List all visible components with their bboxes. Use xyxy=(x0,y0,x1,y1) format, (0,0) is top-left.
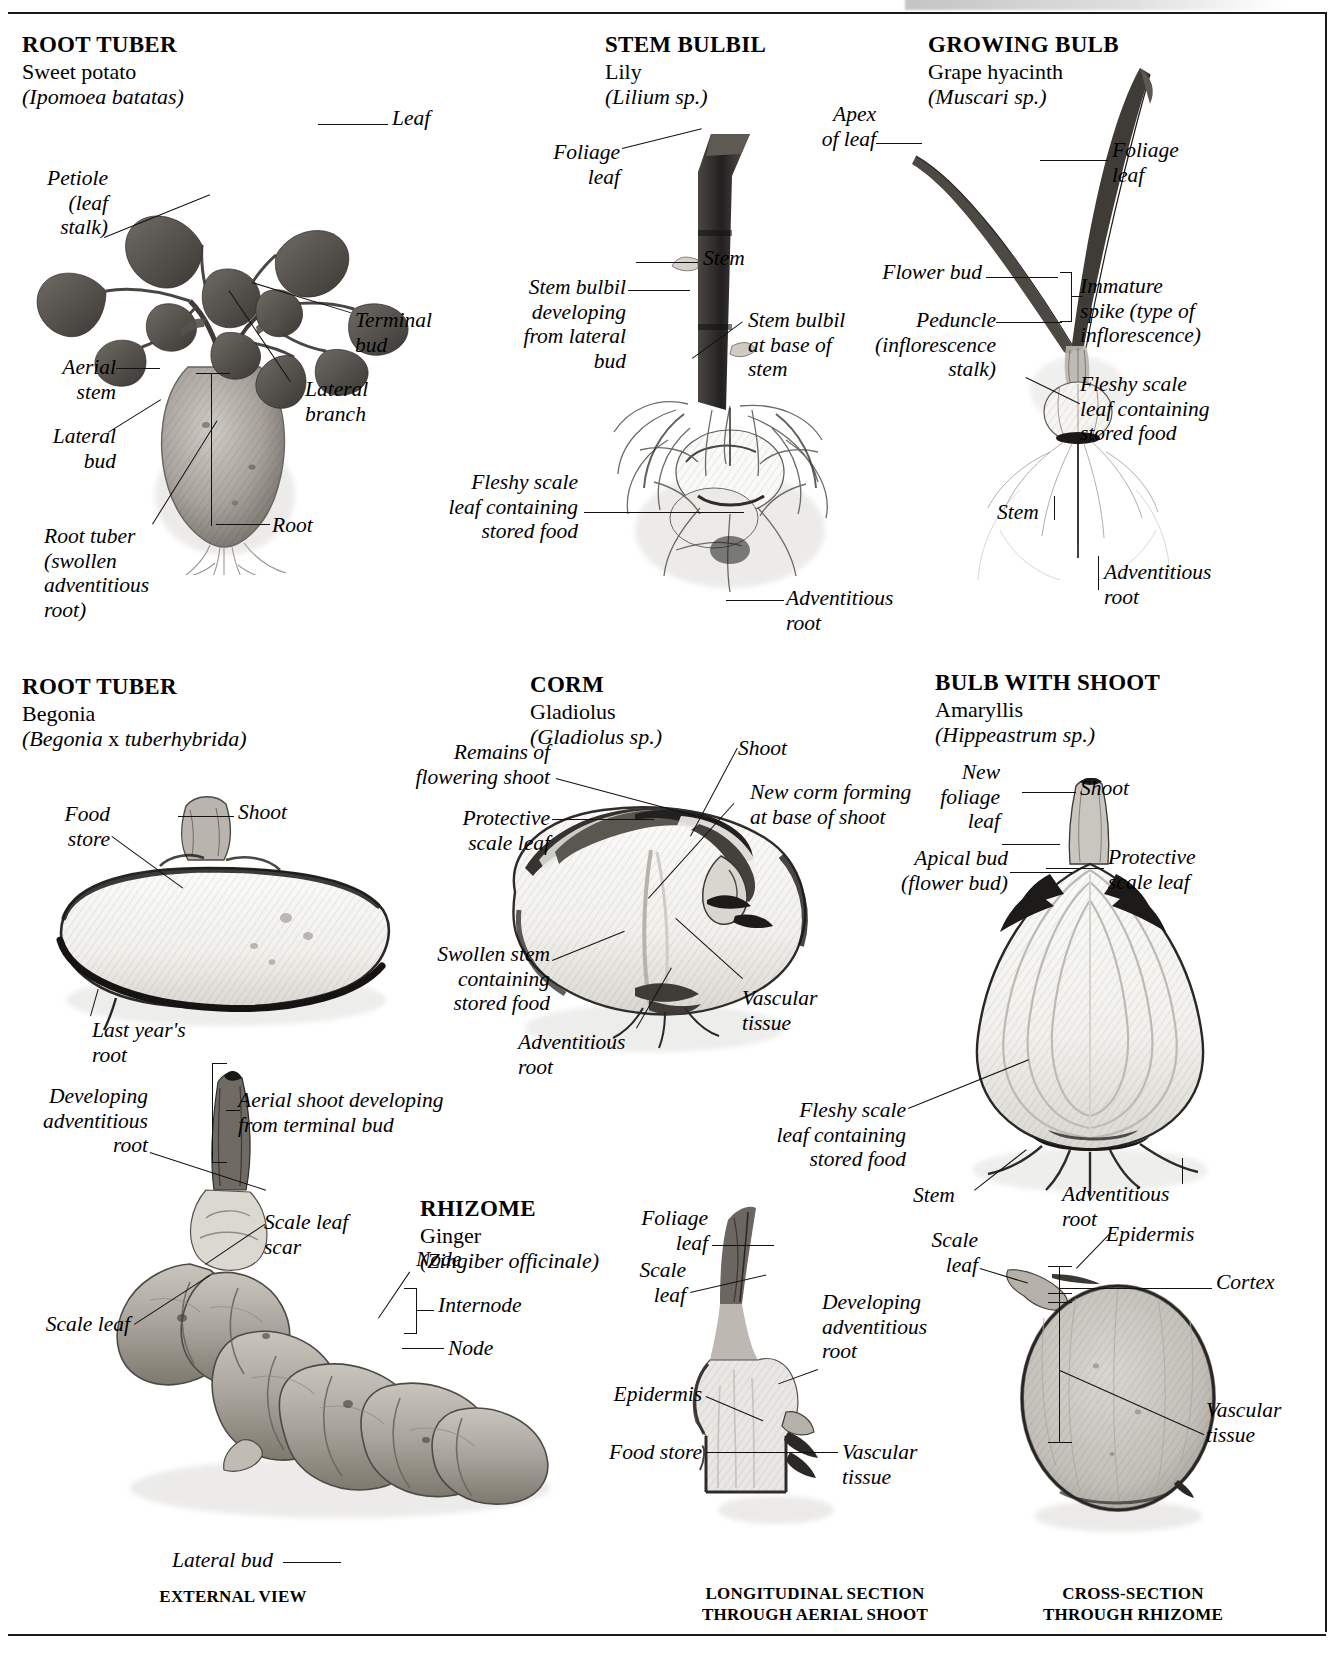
heading-type: BULB WITH SHOOT xyxy=(935,670,1160,697)
heading-amaryllis: BULB WITH SHOOT Amaryllis (Hippeastrum s… xyxy=(935,670,1160,748)
label-remains-flowering-shoot: Remains of flowering shoot xyxy=(390,740,550,789)
label-vascular-ls: Vascular tissue xyxy=(842,1440,917,1489)
latin-part-a: (Begonia xyxy=(22,726,103,751)
label-root-tuber: Root tuber (swollen adventitious root) xyxy=(44,524,194,622)
label-internode: Internode xyxy=(438,1293,522,1318)
heading-begonia: ROOT TUBER Begonia (Begonia x tuberhybri… xyxy=(22,674,246,752)
measure-epidermis-tick-top xyxy=(1048,1266,1072,1267)
label-adv-root-hy: Adventitious root xyxy=(1104,560,1211,609)
heading-type: STEM BULBIL xyxy=(605,32,766,59)
heading-type: CORM xyxy=(530,672,662,699)
heading-common-name: Begonia xyxy=(22,701,246,727)
label-aerial-stem: Aerial stem xyxy=(8,355,116,404)
leader-adv-root-amaryllis xyxy=(1182,1158,1183,1184)
leader-foliage-leaf-ls xyxy=(712,1245,774,1246)
leader-bulbil-lateral xyxy=(628,290,690,291)
leader-apex-of-leaf xyxy=(876,143,922,144)
label-lateral-bud-ginger: Lateral bud xyxy=(172,1548,273,1573)
heading-latin-name: (Begonia x tuberhybrida) xyxy=(22,726,246,752)
label-food-store: Food store xyxy=(10,802,110,851)
measure-cortex-tick-2 xyxy=(1048,1302,1072,1303)
leader-new-foliage-leaf xyxy=(1002,844,1060,845)
label-epidermis-ls: Epidermis xyxy=(578,1382,702,1407)
leader-aerial-stem xyxy=(116,368,160,369)
heading-common-name: Lily xyxy=(605,59,766,85)
label-vascular-corm: Vascular tissue xyxy=(742,986,817,1035)
label-shoot-amaryllis: Shoot xyxy=(1080,776,1129,801)
label-developing-adv-root-ls: Developing adventitious root xyxy=(822,1290,968,1364)
running-header-ghost xyxy=(905,0,1285,10)
label-vascular-xs: Vascular tissue xyxy=(1206,1398,1281,1447)
leader-shoot-begonia xyxy=(178,816,234,817)
leader-protective-scale-corm xyxy=(552,819,654,820)
label-aerial-shoot-developing: Aerial shoot developing from terminal bu… xyxy=(238,1088,468,1137)
label-foliage-leaf-ls: Foliage leaf xyxy=(608,1206,708,1255)
label-stem-amaryllis: Stem xyxy=(913,1183,955,1208)
label-apical-bud: Apical bud (flower bud) xyxy=(852,846,1008,895)
label-immature-spike: Immature spike (type of inflorescence) xyxy=(1080,274,1256,348)
label-petiole: Petiole (leaf stalk) xyxy=(10,166,108,240)
label-fleshy-scale-amaryllis: Fleshy scale leaf containing stored food xyxy=(760,1098,906,1172)
leader-adv-root-hy xyxy=(1098,556,1099,590)
label-root: Root xyxy=(272,513,313,538)
page-root: ROOT TUBER Sweet potato (Ipomoea batatas… xyxy=(0,0,1335,1654)
label-terminal-bud: Terminal bud xyxy=(355,308,432,357)
heading-type: GROWING BULB xyxy=(928,32,1119,59)
label-stem: Stem xyxy=(703,246,745,271)
leader-stem-hy xyxy=(1054,496,1055,520)
leader-node-2 xyxy=(402,1348,444,1349)
heading-latin-name: (Lilium sp.) xyxy=(605,84,766,110)
leader-immature-spike xyxy=(1071,296,1083,297)
label-cortex-xs: Cortex xyxy=(1216,1270,1275,1295)
label-bulbil-lateral: Stem bulbil developing from lateral bud xyxy=(470,275,626,373)
leader-tuber-span xyxy=(211,374,212,526)
label-adv-root-lily: Adventitious root xyxy=(786,586,893,635)
label-foliage-leaf: Foliage leaf xyxy=(524,140,620,189)
measure-cortex-tick-1 xyxy=(1048,1293,1072,1294)
latin-part-b: tuberhybrida) xyxy=(125,726,247,751)
heading-common-name: Amaryllis xyxy=(935,697,1160,723)
measure-bottom-tick xyxy=(1048,1442,1072,1443)
label-scale-leaf-ls: Scale leaf xyxy=(608,1258,686,1307)
leader-cortex xyxy=(1060,1288,1212,1289)
page-rule-bottom xyxy=(8,1634,1326,1636)
label-epidermis-xs: Epidermis xyxy=(1106,1222,1194,1247)
specimen-amaryllis-bulb xyxy=(930,778,1260,1198)
heading-common-name: Sweet potato xyxy=(22,59,184,85)
label-node-1: Node xyxy=(416,1247,461,1272)
label-fleshy-scale-lily: Fleshy scale leaf containing stored food xyxy=(412,470,578,544)
label-protective-scale-corm: Protective scale leaf xyxy=(392,806,550,855)
label-scale-leaf-xs: Scale leaf xyxy=(880,1228,978,1277)
heading-lily: STEM BULBIL Lily (Lilium sp.) xyxy=(605,32,766,110)
leader-adv-root-lily xyxy=(726,600,784,601)
leader-apical-bud xyxy=(1010,872,1072,873)
leader-vascular-ls xyxy=(762,1452,838,1453)
specimen-xs-rhizome xyxy=(1000,1248,1240,1538)
label-stem-hy: Stem xyxy=(997,500,1039,525)
leader-internode xyxy=(416,1310,434,1311)
label-fleshy-scale-hy: Fleshy scale leaf containing stored food xyxy=(1080,372,1260,446)
leader-leaf xyxy=(318,124,388,125)
page-rule-top xyxy=(8,12,1326,14)
leader-food-store-ls xyxy=(706,1452,768,1453)
label-last-years-root: Last year's root xyxy=(92,1018,222,1067)
leader-fleshy-scale-lily xyxy=(584,512,744,513)
heading-latin-name: (Hippeastrum sp.) xyxy=(935,722,1160,748)
label-shoot-corm: Shoot xyxy=(738,736,787,761)
label-scale-leaf-scar: Scale leaf scar xyxy=(264,1210,404,1259)
label-new-foliage-leaf: New foliage leaf xyxy=(918,760,1000,834)
leader-peduncle xyxy=(996,322,1062,323)
latin-hybrid-x: x xyxy=(103,726,125,751)
label-lateral-branch: Lateral branch xyxy=(305,377,368,426)
heading-type: ROOT TUBER xyxy=(22,32,184,59)
leader-root xyxy=(216,524,270,525)
label-foliage-leaf-hy: Foliage leaf xyxy=(1112,138,1179,187)
leader-lateral-bud-ginger xyxy=(283,1562,341,1563)
leader-stem xyxy=(636,262,698,263)
label-leaf: Leaf xyxy=(392,106,430,131)
bracket-aerial-shoot xyxy=(212,1063,227,1163)
caption-longitudinal-section: LONGITUDINAL SECTION THROUGH AERIAL SHOO… xyxy=(650,1583,980,1626)
caption-external-view: EXTERNAL VIEW xyxy=(118,1586,348,1607)
leader-shoot-amaryllis xyxy=(1022,792,1076,793)
label-protective-scale-amaryllis: Protective scale leaf xyxy=(1108,845,1258,894)
